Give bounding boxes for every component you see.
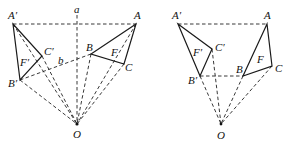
label-O: O [217,129,225,141]
label-C1: C′ [44,45,54,57]
label-A: A [263,9,271,21]
rotation-diagram: A′ A a C′ B C B′ O b F′ F A′ A C′ B′ B C… [0,0,285,153]
label-F1: F′ [19,56,30,68]
label-B: B [236,63,243,75]
center-point-O [75,122,78,125]
label-F: F [110,46,118,58]
label-C: C [275,62,283,74]
center-point-O [220,123,223,126]
label-C1: C′ [215,41,225,53]
label-A1: A′ [7,9,18,21]
label-F: F [256,53,264,65]
label-A: A [133,9,141,21]
segment-C1-O [212,49,221,124]
label-B1: B′ [8,77,18,89]
segment-C-O [77,64,124,124]
segment-B1-B-axis-b [20,54,91,80]
triangle-F1 [13,24,42,80]
segment-C1-O [42,56,77,124]
label-b: b [58,54,64,66]
segment-A1-O [13,24,77,124]
label-F1: F′ [192,46,203,58]
triangle-F [243,24,272,76]
label-B1: B′ [188,74,198,86]
label-C: C [125,61,133,73]
segment-A-O [77,24,136,124]
triangle-F [91,24,136,64]
label-A1: A′ [171,9,182,21]
label-B: B [86,41,93,53]
label-a: a [74,3,80,15]
right-figure: A′ A C′ B′ B C O F′ F [171,9,283,141]
segment-B-O [77,54,91,124]
left-figure: A′ A a C′ B C B′ O b F′ F [7,3,141,140]
segment-B1-O [20,80,77,124]
label-O: O [73,128,81,140]
segment-B-O [221,76,243,124]
